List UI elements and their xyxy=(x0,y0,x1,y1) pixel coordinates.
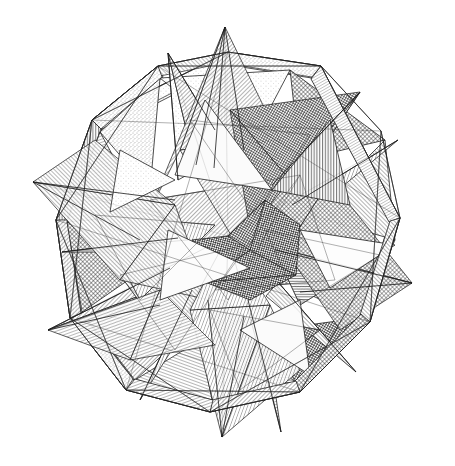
polyhedron-illustration xyxy=(0,0,455,466)
artwork-canvas: Interlocking Stellated Polyhedron Compou… xyxy=(0,0,455,466)
